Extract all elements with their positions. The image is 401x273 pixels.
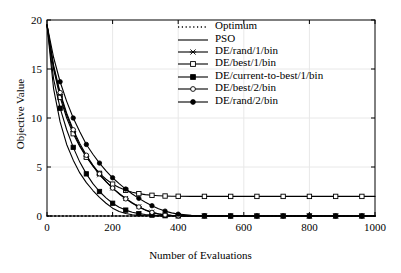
legend-item: DE/current-to-best/1/bin [176, 69, 323, 81]
legend-label: DE/rand/2/bin [210, 94, 278, 106]
legend-item: DE/best/1/bin [176, 56, 323, 68]
x-tick-label: 0 [44, 221, 50, 233]
legend-label: PSO [210, 32, 235, 44]
chart-legend: OptimumPSODE/rand/1/binDE/best/1/binDE/c… [176, 19, 323, 106]
legend-label: DE/best/2/bin [210, 81, 276, 93]
y-tick-label: 10 [16, 112, 42, 124]
legend-item: DE/rand/2/bin [176, 93, 323, 105]
legend-label: DE/best/1/bin [210, 56, 276, 68]
y-tick-label: 5 [16, 161, 42, 173]
y-tick-label: 0 [16, 210, 42, 222]
y-tick-label: 15 [16, 63, 42, 75]
x-tick-label: 200 [104, 221, 121, 233]
legend-marker-icon [176, 69, 210, 81]
x-tick-label: 800 [301, 221, 318, 233]
legend-label: DE/current-to-best/1/bin [210, 69, 323, 81]
legend-marker-icon [176, 81, 210, 93]
legend-marker-icon [176, 44, 210, 56]
x-axis-label: Number of Evaluations [0, 249, 401, 261]
legend-marker-icon [176, 56, 210, 68]
x-tick-label: 600 [236, 221, 253, 233]
legend-marker-icon [176, 94, 210, 106]
x-tick-label: 1000 [364, 221, 386, 233]
legend-label: DE/rand/1/bin [210, 44, 278, 56]
x-tick-label: 400 [170, 221, 187, 233]
legend-marker-icon [176, 32, 210, 44]
legend-item: PSO [176, 31, 323, 43]
legend-item: DE/rand/1/bin [176, 44, 323, 56]
legend-marker-icon [176, 19, 210, 31]
y-axis-label-wrap: Objective Value [2, 0, 20, 273]
legend-label: Optimum [210, 19, 257, 31]
y-tick-label: 20 [16, 14, 42, 26]
chart-container: Objective Value Number of Evaluations 02… [0, 0, 401, 273]
legend-item: DE/best/2/bin [176, 81, 323, 93]
legend-item: Optimum [176, 19, 323, 31]
